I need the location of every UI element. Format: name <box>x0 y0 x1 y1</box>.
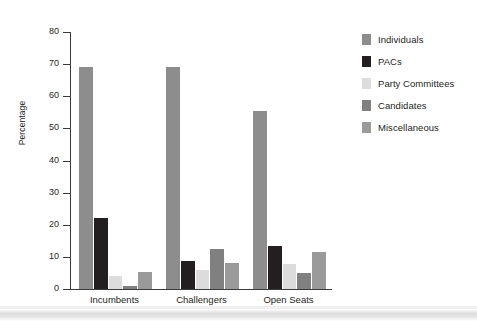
legend-item: Individuals <box>362 28 477 50</box>
legend-swatch-icon <box>362 122 371 133</box>
y-tick-label: 20 <box>49 219 59 229</box>
legend-swatch-icon <box>362 100 371 111</box>
bar-chart-figure: Percentage 01020304050607080 IncumbentsC… <box>0 0 477 321</box>
legend-label: PACs <box>378 56 402 67</box>
legend-label: Miscellaneous <box>378 122 439 133</box>
legend-label: Individuals <box>378 34 423 45</box>
y-axis-title: Percentage <box>17 63 27 183</box>
bar-party-committees-challengers <box>196 270 210 289</box>
legend-item: Candidates <box>362 94 477 116</box>
bar-pacs-challengers <box>181 261 195 289</box>
bar-pacs-open-seats <box>268 246 282 289</box>
y-tick-label: 80 <box>49 26 59 36</box>
y-tick: 80 <box>63 32 70 33</box>
bar-individuals-challengers <box>166 67 180 289</box>
y-tick: 0 <box>63 289 70 290</box>
bar-pacs-incumbents <box>94 218 108 289</box>
y-tick: 20 <box>63 225 70 226</box>
bar-party-committees-open-seats <box>283 264 297 289</box>
legend-label: Party Committees <box>378 78 454 89</box>
y-tick: 40 <box>63 161 70 162</box>
x-category-label: Incumbents <box>71 294 158 305</box>
legend-item: Party Committees <box>362 72 477 94</box>
legend-label: Candidates <box>378 100 427 111</box>
x-category-label: Challengers <box>158 294 245 305</box>
bar-miscellaneous-incumbents <box>138 272 152 289</box>
y-tick: 60 <box>63 96 70 97</box>
y-tick: 10 <box>63 257 70 258</box>
legend-item: PACs <box>362 50 477 72</box>
legend-swatch-icon <box>362 78 371 89</box>
y-tick: 50 <box>63 128 70 129</box>
y-tick-label: 0 <box>54 283 59 293</box>
legend-item: Miscellaneous <box>362 116 477 138</box>
bar-individuals-open-seats <box>253 111 267 289</box>
bar-candidates-challengers <box>210 249 224 289</box>
chart-legend: IndividualsPACsParty CommitteesCandidate… <box>362 28 477 138</box>
y-tick-label: 10 <box>49 251 59 261</box>
x-category-label: Open Seats <box>245 294 332 305</box>
y-tick-label: 70 <box>49 58 59 68</box>
bar-candidates-open-seats <box>297 273 311 289</box>
bar-candidates-incumbents <box>123 286 137 289</box>
bar-individuals-incumbents <box>79 67 93 289</box>
plot-area: Percentage 01020304050607080 IncumbentsC… <box>0 0 340 300</box>
y-tick-label: 50 <box>49 122 59 132</box>
bars-layer <box>71 32 332 289</box>
bar-miscellaneous-open-seats <box>312 252 326 289</box>
y-tick-label: 40 <box>49 155 59 165</box>
y-tick-label: 60 <box>49 90 59 100</box>
legend-swatch-icon <box>362 56 371 67</box>
bar-party-committees-incumbents <box>109 276 123 289</box>
y-tick: 70 <box>63 64 70 65</box>
bar-miscellaneous-challengers <box>225 263 239 289</box>
y-tick: 30 <box>63 193 70 194</box>
x-axis-line <box>70 289 332 290</box>
y-tick-label: 30 <box>49 187 59 197</box>
legend-swatch-icon <box>362 34 371 45</box>
scan-artifact-strip <box>0 309 477 321</box>
